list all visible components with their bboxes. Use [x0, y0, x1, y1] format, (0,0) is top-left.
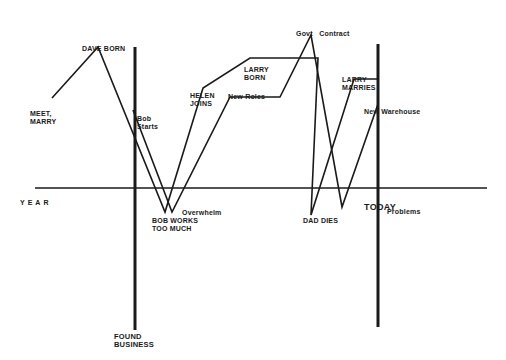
event-dad-dies: DAD DIES [303, 217, 338, 225]
business-life-line [133, 35, 378, 212]
event-larry-born: LARRY BORN [244, 66, 269, 82]
event-govt-contract: Govt Contract [296, 30, 350, 38]
event-problems: Problems [387, 208, 421, 216]
event-new-roles: New Roles [228, 93, 265, 101]
event-larry-marries: LARRY MARRIES [342, 76, 376, 92]
event-bob-works-too-much: BOB WORKS TOO MUCH [152, 217, 198, 233]
event-helen-joins: HELEN JOINS [190, 92, 215, 108]
event-new-warehouse: New Warehouse [364, 108, 420, 116]
year-axis-label: YEAR [20, 199, 51, 207]
event-meet-marry: MEET, MARRY [30, 110, 56, 126]
timeline-diagram [0, 0, 506, 360]
event-bob-starts: Bob Starts [137, 115, 158, 131]
event-dave-born: DAVE BORN [82, 45, 125, 53]
found-business-label: FOUND BUSINESS [114, 333, 154, 349]
event-overwhelm: Overwhelm [182, 209, 222, 217]
